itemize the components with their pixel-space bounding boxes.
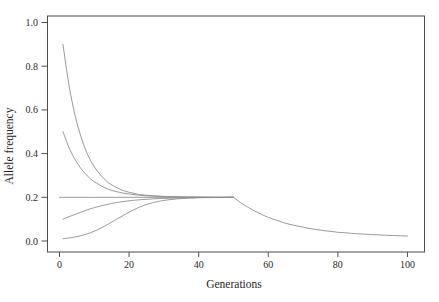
axis-ticks — [42, 22, 408, 257]
x-tick-label: 20 — [124, 259, 134, 270]
x-tick-label: 80 — [333, 259, 343, 270]
x-axis-label: Generations — [206, 278, 262, 290]
allele-frequency-figure: 0204060801000.00.20.40.60.81.0 Generatio… — [0, 0, 439, 302]
series-line-start-frequency-0.1 — [63, 197, 234, 219]
x-tick-label: 0 — [57, 259, 62, 270]
series-line-start-frequency-0.5 — [63, 132, 234, 198]
y-tick-label: 0.6 — [26, 104, 39, 115]
y-axis-label: Allele frequency — [3, 107, 16, 184]
axis-tick-labels: 0204060801000.00.20.40.60.81.0 — [26, 17, 415, 270]
x-tick-label: 100 — [400, 259, 415, 270]
series-line-start-frequency-0.01 — [63, 197, 234, 239]
plot-frame — [48, 16, 425, 252]
y-tick-label: 0.2 — [26, 192, 39, 203]
x-tick-label: 60 — [263, 259, 273, 270]
allele-frequency-chart: 0204060801000.00.20.40.60.81.0 Generatio… — [0, 0, 439, 302]
series-curves — [60, 44, 408, 239]
y-tick-label: 0.0 — [26, 236, 39, 247]
series-line-start-frequency-0.9 — [63, 44, 234, 197]
y-tick-label: 0.4 — [26, 148, 39, 159]
x-tick-label: 40 — [194, 259, 204, 270]
y-tick-label: 1.0 — [26, 17, 39, 28]
y-tick-label: 0.8 — [26, 61, 39, 72]
